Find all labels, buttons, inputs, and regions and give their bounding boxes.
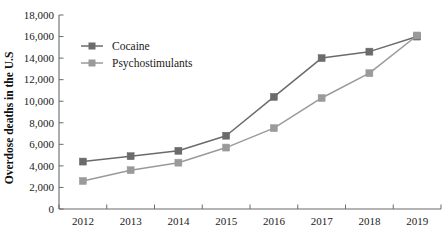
data-point-marker [366, 48, 373, 55]
chart-container: Overdose deaths in the U.S 02,0004,0006,… [0, 0, 445, 240]
data-point-marker [127, 153, 134, 160]
y-axis-tick-label: 12,000 [24, 73, 55, 85]
data-point-marker [318, 94, 325, 101]
legend-label: Psychostimulants [112, 57, 193, 70]
data-point-marker [414, 32, 421, 39]
legend-marker-swatch [89, 43, 96, 50]
x-axis-tick-label: 2016 [263, 215, 286, 227]
data-point-marker [79, 158, 86, 165]
y-axis-tick-label: 18,000 [24, 9, 55, 21]
x-axis-tick-label: 2018 [358, 215, 381, 227]
y-axis-tick-labels: 02,0004,0006,0008,00010,00012,00014,0001… [24, 9, 55, 215]
data-point-marker [127, 167, 134, 174]
x-axis-tick-label: 2014 [167, 215, 190, 227]
y-axis-tick-label: 6,000 [29, 138, 54, 150]
y-axis-tick-label: 0 [49, 203, 55, 215]
y-axis-tick-label: 16,000 [24, 30, 55, 42]
y-axis-tick-marks [59, 15, 64, 209]
chart-legend: CocainePsychostimulants [81, 40, 193, 70]
line-chart-plot: Overdose deaths in the U.S 02,0004,0006,… [0, 0, 445, 240]
data-point-marker [223, 144, 230, 151]
series-markers-group [79, 32, 420, 185]
data-point-marker [223, 132, 230, 139]
y-axis-tick-label: 14,000 [24, 52, 55, 64]
y-axis-title: Overdose deaths in the U.S [3, 52, 15, 185]
data-point-marker [318, 55, 325, 62]
x-axis-tick-marks [59, 205, 441, 210]
y-axis-tick-label: 8,000 [29, 117, 54, 129]
data-point-marker [366, 70, 373, 77]
x-axis-tick-label: 2019 [406, 215, 429, 227]
x-axis-tick-label: 2015 [215, 215, 238, 227]
legend-label: Cocaine [112, 40, 150, 52]
x-axis-tick-label: 2017 [311, 215, 334, 227]
data-point-marker [270, 93, 277, 100]
legend-marker-swatch [89, 60, 96, 67]
x-axis-tick-label: 2013 [120, 215, 143, 227]
x-axis-tick-labels: 20122013201420152016201720182019 [72, 215, 429, 227]
data-point-marker [175, 147, 182, 154]
data-point-marker [270, 125, 277, 132]
y-axis-tick-label: 2,000 [29, 181, 54, 193]
y-axis-tick-label: 4,000 [29, 160, 54, 172]
y-axis-title-text: Overdose deaths in the U.S [3, 52, 15, 185]
data-point-marker [79, 177, 86, 184]
y-axis-tick-label: 10,000 [24, 95, 55, 107]
data-point-marker [175, 159, 182, 166]
x-axis-tick-label: 2012 [72, 215, 94, 227]
